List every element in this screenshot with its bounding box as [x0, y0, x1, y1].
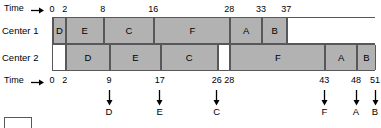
down-arrow-icon	[153, 90, 167, 106]
task-block-label: D	[84, 52, 91, 63]
task-block-c: C	[104, 18, 155, 43]
axis-tick-label: 51	[370, 75, 380, 85]
down-arrow-icon	[102, 90, 116, 106]
axis-tick-label: 8	[100, 4, 105, 14]
completion-marker-d: D	[102, 90, 116, 117]
idle-block	[287, 18, 376, 43]
task-block-label: F	[275, 52, 281, 63]
axis-tick-label: 43	[319, 75, 329, 85]
axis-tick-label: 26	[212, 75, 222, 85]
task-block-label: F	[189, 25, 195, 36]
right-arrow-icon	[31, 6, 44, 15]
idle-block	[53, 45, 66, 70]
top-axis-caption: Time	[4, 3, 24, 14]
lane-label-center-2: Center 2	[2, 52, 38, 64]
completion-label: C	[210, 106, 224, 117]
axis-tick-label: 0	[49, 75, 54, 85]
axis-tick-label: 17	[155, 75, 165, 85]
task-block-label: C	[126, 25, 133, 36]
down-arrow-icon	[349, 90, 363, 106]
task-block-a: A	[325, 45, 357, 70]
axis-tick-label: 16	[148, 4, 158, 14]
task-block-d: D	[53, 18, 66, 43]
down-arrow-icon	[317, 90, 331, 106]
task-block-b: B	[357, 45, 376, 70]
axis-tick-label: 0	[49, 4, 54, 14]
axis-tick-label: 2	[62, 4, 67, 14]
completion-label: D	[102, 106, 116, 117]
task-block-label: B	[363, 52, 369, 63]
task-block-label: E	[81, 25, 87, 36]
task-block-label: C	[186, 52, 193, 63]
axis-tick-label: 2	[62, 75, 67, 85]
task-block-label: A	[243, 25, 249, 36]
axis-tick-label: 37	[281, 4, 291, 14]
task-block-label: A	[338, 52, 344, 63]
task-block-e: E	[110, 45, 161, 70]
right-arrow-icon	[31, 78, 44, 87]
task-block-e: E	[66, 18, 104, 43]
down-arrow-icon	[210, 90, 224, 106]
gantt-schedule-chart: Time 02816283337 Center 1 DECFAB Center …	[0, 0, 381, 128]
legend-swatch	[4, 117, 32, 128]
bottom-axis-caption: Time	[4, 75, 24, 86]
task-block-d: D	[66, 45, 110, 70]
axis-tick-label: 33	[256, 4, 266, 14]
lane-label-center-1: Center 1	[2, 25, 38, 37]
completion-label: E	[153, 106, 167, 117]
completion-label: F	[317, 106, 331, 117]
completion-marker-f: F	[317, 90, 331, 117]
completion-label: A	[349, 106, 363, 117]
lane-center-2: DECFAB	[52, 44, 375, 71]
axis-tick-label: 48	[351, 75, 361, 85]
completion-marker-a: A	[349, 90, 363, 117]
task-block-label: D	[56, 25, 63, 36]
completion-marker-b: B	[368, 90, 381, 117]
task-block-c: C	[161, 45, 218, 70]
task-block-label: B	[271, 25, 277, 36]
task-block-f: F	[230, 45, 325, 70]
task-block-label: E	[132, 52, 138, 63]
down-arrow-icon	[368, 90, 381, 106]
completion-marker-e: E	[153, 90, 167, 117]
completion-label: B	[368, 106, 381, 117]
idle-block	[218, 45, 231, 70]
lane-center-1: DECFAB	[52, 17, 375, 44]
task-block-f: F	[154, 18, 230, 43]
axis-tick-label: 28	[224, 4, 234, 14]
task-block-a: A	[230, 18, 262, 43]
axis-tick-label: 28	[224, 75, 234, 85]
completion-marker-c: C	[210, 90, 224, 117]
axis-tick-label: 9	[106, 75, 111, 85]
task-block-b: B	[262, 18, 287, 43]
